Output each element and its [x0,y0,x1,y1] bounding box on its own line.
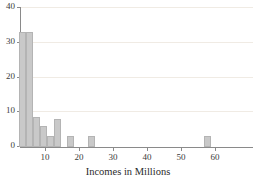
x-tick-label-50: 50 [169,153,193,162]
bar-bin-5 [47,136,54,147]
y-tick-label-30: 30 [0,37,15,46]
x-tick-label-30: 30 [101,153,125,162]
x-tick-60 [215,148,216,151]
x-tick-label-60: 60 [203,153,227,162]
bar-bin-57 [204,136,211,147]
bar-bin-4 [40,126,47,147]
x-tick-30 [113,148,114,151]
bar-bin-8 [67,136,74,147]
x-tick-label-40: 40 [135,153,159,162]
y-tick-label-0: 0 [0,141,15,150]
x-tick-label-20: 20 [67,153,91,162]
x-axis-title: Incomes in Millions [0,166,256,178]
gridline-y-10 [20,111,253,112]
bar-bin-2 [26,32,33,147]
x-tick-50 [181,148,182,151]
gridline-y-30 [20,42,253,43]
bar-bin-6 [54,119,61,147]
x-tick-10 [45,148,46,151]
y-tick-label-40: 40 [0,2,15,11]
y-tick-label-10: 10 [0,106,15,115]
y-tick-40 [17,7,20,8]
plot-area: 40 30 20 10 0 10 20 30 40 50 60 Incomes … [0,0,256,183]
bar-bin-3 [33,117,40,147]
bar-bin-11 [88,136,95,147]
x-tick-40 [147,148,148,151]
x-tick-label-10: 10 [33,153,57,162]
gridline-y-40 [20,7,253,8]
x-axis-line [20,147,253,148]
y-tick-label-20: 20 [0,72,15,81]
x-tick-20 [79,148,80,151]
bar-bin-1 [19,32,26,147]
histogram-figure: 40 30 20 10 0 10 20 30 40 50 60 Incomes … [0,0,256,183]
gridline-y-20 [20,77,253,78]
